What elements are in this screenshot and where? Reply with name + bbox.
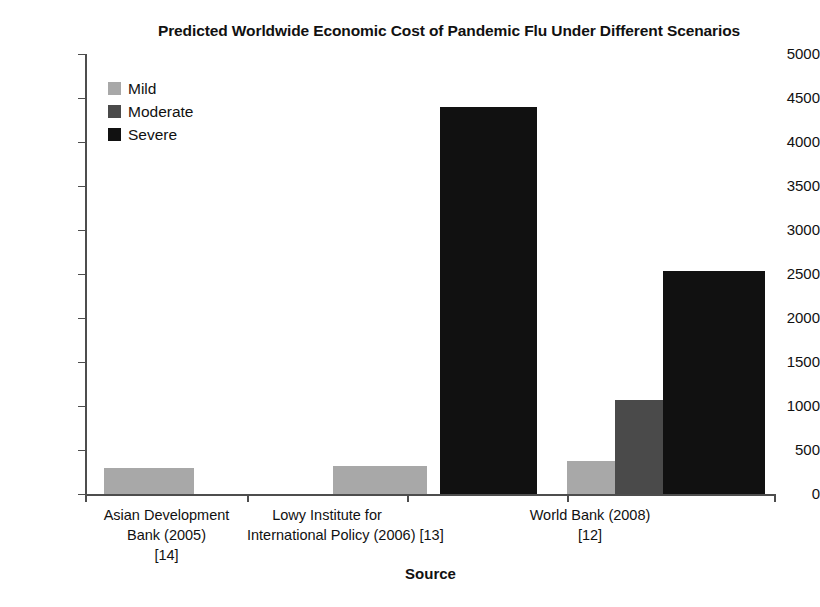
category-label-line-1: Lowy Institute for (247, 505, 407, 525)
chart-title: Predicted Worldwide Economic Cost of Pan… (92, 22, 806, 40)
category-label-line-3: [14] (86, 545, 247, 565)
category-label-line-2: International Policy (2006) [13] (247, 525, 407, 545)
x-axis-line (85, 494, 776, 496)
legend-swatch-moderate (108, 105, 121, 118)
category-label-line-1: Asian Development (86, 505, 247, 525)
legend-swatch-mild (108, 82, 121, 95)
legend-item-mild: Mild (108, 78, 278, 99)
bar-severe-world-bank (663, 271, 765, 494)
x-tick-0 (85, 494, 87, 502)
x-tick-3 (567, 494, 569, 502)
category-label-line-2: Bank (2005) (86, 525, 247, 545)
legend-label-moderate: Moderate (128, 104, 193, 120)
bar-severe-lowy-institute (440, 107, 537, 494)
bar-mild-world-bank (567, 461, 615, 494)
bar-mild-asian-development-bank (104, 468, 194, 494)
bar-mild-lowy-institute (333, 466, 427, 494)
legend-label-severe: Severe (128, 127, 177, 143)
legend: Mild Moderate Severe (108, 78, 278, 147)
legend-item-moderate: Moderate (108, 101, 278, 122)
bar-moderate-world-bank (615, 400, 663, 494)
chart-figure: Predicted Worldwide Economic Cost of Pan… (0, 0, 820, 607)
category-label-line-1: World Bank (2008) (510, 505, 670, 525)
x-axis-title: Source (86, 565, 775, 582)
legend-swatch-severe (108, 128, 121, 141)
legend-label-mild: Mild (128, 81, 156, 97)
category-label-lowy-institute: Lowy Institute for International Policy … (247, 505, 407, 545)
legend-item-severe: Severe (108, 124, 278, 145)
category-label-asian-development-bank: Asian Development Bank (2005) [14] (86, 505, 247, 565)
category-label-world-bank: World Bank (2008) [12] (510, 505, 670, 545)
x-tick-4 (774, 494, 776, 502)
x-tick-1 (247, 494, 249, 502)
x-tick-2 (407, 494, 409, 502)
category-label-line-2: [12] (510, 525, 670, 545)
